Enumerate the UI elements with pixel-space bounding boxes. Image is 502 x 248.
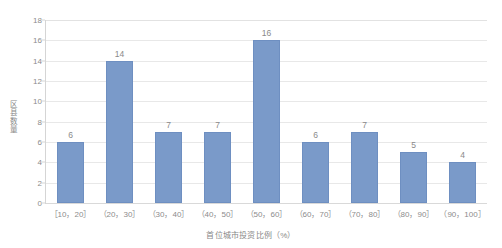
y-axis-tick-label: 2 [22, 178, 42, 187]
y-axis-tick-label: 0 [22, 199, 42, 208]
x-axis-tick-label: （20，30］ [95, 208, 144, 219]
bar-value-label: 14 [95, 49, 144, 59]
x-axis-tick-label: （50，60］ [242, 208, 291, 219]
bar[interactable] [400, 152, 427, 203]
bar-value-label: 7 [193, 120, 242, 130]
x-axis-tick-label: （70，80］ [340, 208, 389, 219]
y-axis-title: 区县数量 [6, 72, 20, 162]
y-axis-tick-label: 12 [22, 77, 42, 86]
y-axis-tick-label: 18 [22, 16, 42, 25]
y-axis-tick-mark [41, 101, 45, 102]
bar-value-label: 7 [340, 120, 389, 130]
y-axis-tick-label: 10 [22, 97, 42, 106]
x-axis-tick-label: （30，40］ [144, 208, 193, 219]
x-axis-tick-label: （40，50］ [193, 208, 242, 219]
y-axis-tick-mark [41, 20, 45, 21]
bar[interactable] [57, 142, 84, 203]
y-axis-tick-labels: 024681012141618 [22, 0, 42, 248]
y-axis-tick-mark [41, 60, 45, 61]
x-axis-tick-label: （80，90］ [389, 208, 438, 219]
y-axis-tick-mark [41, 203, 45, 204]
bar-value-label: 7 [144, 120, 193, 130]
gridline [46, 203, 487, 204]
bar[interactable] [449, 162, 476, 203]
y-axis-tick-mark [41, 162, 45, 163]
y-axis-tick-label: 14 [22, 56, 42, 65]
y-axis-tick-label: 8 [22, 117, 42, 126]
y-axis-tick-label: 4 [22, 158, 42, 167]
y-axis-tick-mark [41, 121, 45, 122]
x-axis-tick-label: （90，100］ [438, 208, 487, 219]
bar-value-label: 16 [242, 28, 291, 38]
x-axis-title: 首位城市投资比例（%） [0, 229, 502, 240]
y-axis-tick-mark [41, 142, 45, 143]
bar-value-label: 4 [438, 150, 487, 160]
bar[interactable] [204, 132, 231, 203]
bar-value-label: 6 [46, 130, 95, 140]
x-axis-tick-label: （60，70］ [291, 208, 340, 219]
bar-value-label: 5 [389, 140, 438, 150]
bar[interactable] [302, 142, 329, 203]
bar[interactable] [351, 132, 378, 203]
bar-chart: 区县数量 024681012141618 61477166754 首位城市投资比… [0, 0, 502, 248]
bar-value-label: 6 [291, 130, 340, 140]
bar[interactable] [253, 40, 280, 203]
y-axis-tick-mark [41, 81, 45, 82]
gridline [46, 20, 487, 21]
y-axis-tick-label: 6 [22, 138, 42, 147]
plot-area: 61477166754 [46, 20, 487, 203]
bar[interactable] [155, 132, 182, 203]
bar[interactable] [106, 61, 133, 203]
y-axis-tick-mark [41, 40, 45, 41]
y-axis-tick-mark [41, 182, 45, 183]
x-axis-tick-label: ［10，20］ [46, 208, 95, 219]
y-axis-tick-label: 16 [22, 36, 42, 45]
